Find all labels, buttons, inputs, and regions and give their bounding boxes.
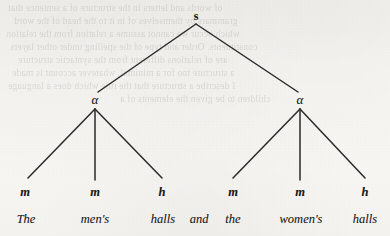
tree-node-leaf-h: h [362,185,369,200]
tree-diagram [0,0,390,236]
tree-word: halls [151,212,175,227]
tree-node-leaf-m: m [228,185,238,200]
tree-branch [28,109,95,178]
branch-group [28,24,365,180]
tree-node-leaf-m: m [20,185,30,200]
tree-node-alpha: α [92,92,99,108]
tree-word: The [17,212,36,227]
tree-word: women's [280,212,323,227]
tree-branch [300,109,365,178]
tree-branch [233,109,300,178]
tree-node-root-s: s [194,9,199,24]
tree-node-leaf-h: h [159,185,166,200]
tree-branch [95,109,162,178]
tree-node-leaf-m: m [90,185,100,200]
tree-word: men's [81,212,109,227]
tree-node-leaf-m: m [295,185,305,200]
tree-word: and [190,212,209,227]
tree-node-alpha: α [297,92,304,108]
tree-branch [196,24,298,92]
tree-word: halls [353,212,377,227]
tree-branch [98,24,196,92]
tree-word: the [225,212,240,227]
